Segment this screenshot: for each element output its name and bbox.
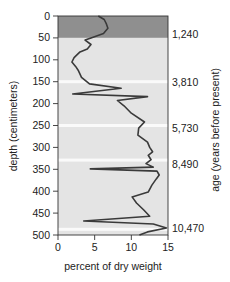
x-axis-label: percent of dry weight <box>64 260 162 272</box>
age-label: 1,240 <box>172 28 198 40</box>
age-label: 5,730 <box>172 122 198 134</box>
secondary-y-axis-label: age (years before present) <box>209 68 221 192</box>
x-tick-label: 0 <box>55 241 61 253</box>
age-labels: 1,2403,8105,7308,49010,470 <box>172 28 204 235</box>
y-axis-label: depth (centimeters) <box>7 81 19 171</box>
age-label: 3,810 <box>172 76 198 88</box>
y-tick-label: 400 <box>32 185 50 197</box>
x-axis-ticks: 051015 <box>55 235 174 253</box>
band <box>58 38 168 235</box>
line-chart: 050100150200250300350400450500 051015 1,… <box>0 0 230 282</box>
y-tick-label: 500 <box>32 229 50 241</box>
y-tick-label: 300 <box>32 141 50 153</box>
x-tick-label: 15 <box>162 241 174 253</box>
band-separator <box>58 124 168 127</box>
y-tick-label: 0 <box>44 10 50 22</box>
y-axis-ticks: 050100150200250300350400450500 <box>32 10 58 241</box>
y-tick-label: 150 <box>32 75 50 87</box>
y-tick-label: 200 <box>32 97 50 109</box>
y-tick-label: 250 <box>32 119 50 131</box>
x-tick-label: 10 <box>125 241 137 253</box>
y-tick-label: 50 <box>38 31 50 43</box>
y-tick-label: 450 <box>32 207 50 219</box>
y-tick-label: 350 <box>32 163 50 175</box>
y-tick-label: 100 <box>32 53 50 65</box>
band <box>58 16 168 38</box>
age-label: 8,490 <box>172 158 198 170</box>
chart-container: 050100150200250300350400450500 051015 1,… <box>0 0 230 282</box>
band-separator <box>58 80 168 83</box>
age-label: 10,470 <box>172 222 204 234</box>
x-tick-label: 5 <box>92 241 98 253</box>
